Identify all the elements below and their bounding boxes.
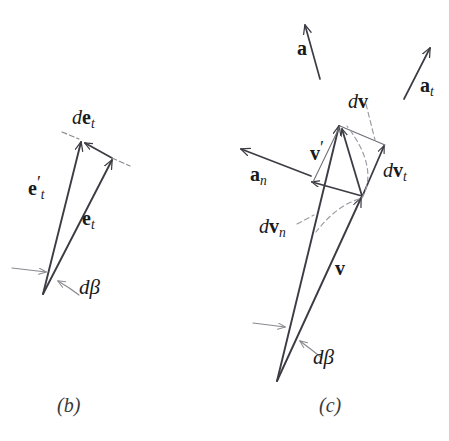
label-dv-n: dvn	[259, 216, 286, 239]
label-a: a	[297, 38, 307, 58]
panel-caption-b: (b)	[57, 394, 80, 417]
label-e-t-prime: e′t	[28, 174, 45, 202]
vector-a	[305, 25, 320, 79]
label-dv: dv	[348, 91, 368, 111]
label-v: v	[335, 258, 345, 278]
label-v-prime: v′	[310, 139, 324, 163]
leader-dv-n-label	[297, 215, 314, 224]
label-e-t: et	[82, 208, 95, 231]
angle-pointer-left-b	[12, 268, 46, 272]
vector-diagram-svg	[0, 0, 449, 441]
label-dv-t: dvt	[383, 160, 407, 183]
angle-pointer-left-c	[253, 323, 285, 327]
vector-dv-n	[312, 182, 362, 196]
vector-e-t	[43, 160, 112, 294]
tick-mark-right	[112, 158, 130, 166]
label-de-t: det	[72, 107, 95, 130]
vector-v-prime	[277, 126, 339, 381]
label-d-beta-c: dβ	[313, 347, 334, 368]
label-a-t: at	[420, 75, 434, 98]
panel-caption-c: (c)	[319, 394, 341, 417]
panel-b-graphics	[12, 132, 130, 295]
vector-e-t-prime	[43, 142, 81, 294]
label-a-n: an	[250, 164, 267, 187]
vector-dv	[342, 129, 362, 196]
figure-canvas	[0, 0, 449, 441]
label-d-beta-b: dβ	[79, 277, 100, 298]
vector-de-t	[85, 143, 112, 158]
tick-mark-left	[62, 132, 79, 139]
panel-c-graphics	[241, 25, 430, 381]
angle-pointer-right-b	[58, 281, 79, 295]
